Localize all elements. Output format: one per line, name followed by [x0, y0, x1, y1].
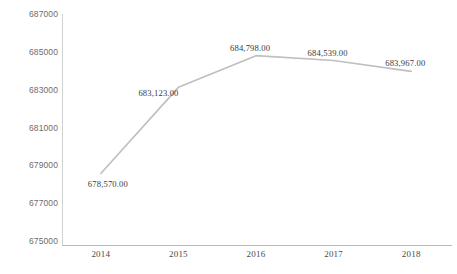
x-axis-tick-label: 2015 [169, 249, 188, 259]
data-point-label: 683,967.00 [385, 58, 425, 68]
data-point-label: 683,123.00 [138, 88, 178, 98]
plot-area: 678,570.00683,123.00684,798.00684,539.00… [62, 14, 450, 241]
y-axis: 6750006770006790006810006830006850006870… [14, 0, 58, 274]
x-axis: 20142015201620172018 [62, 249, 452, 271]
y-axis-tick-label: 681000 [14, 123, 58, 133]
x-axis-tick-label: 2018 [402, 249, 421, 259]
series-line [101, 56, 411, 174]
x-axis-tick-label: 2016 [247, 249, 266, 259]
x-axis-tick-label: 2014 [91, 249, 110, 259]
y-axis-tick-label: 683000 [14, 85, 58, 95]
y-axis-tick-label: 675000 [14, 236, 58, 246]
x-axis-tick-label: 2017 [324, 249, 343, 259]
y-axis-tick-label: 679000 [14, 160, 58, 170]
data-point-label: 684,798.00 [230, 43, 270, 53]
y-axis-tick-label: 687000 [14, 9, 58, 19]
x-axis-line [62, 245, 452, 246]
y-axis-tick-label: 677000 [14, 198, 58, 208]
y-axis-tick-label: 685000 [14, 47, 58, 57]
data-point-label: 678,570.00 [88, 179, 128, 189]
data-point-label: 684,539.00 [308, 48, 348, 58]
line-chart: 6750006770006790006810006830006850006870… [0, 0, 457, 274]
